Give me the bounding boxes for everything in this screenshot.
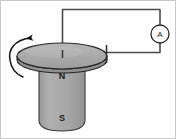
magnet-south-label: S	[59, 113, 65, 123]
homopolar-generator-diagram: A N S	[0, 0, 176, 139]
figure-root: A N S	[0, 0, 176, 139]
disc-highlight	[25, 47, 85, 58]
ammeter-label: A	[157, 30, 163, 39]
ammeter[interactable]: A	[151, 25, 169, 43]
